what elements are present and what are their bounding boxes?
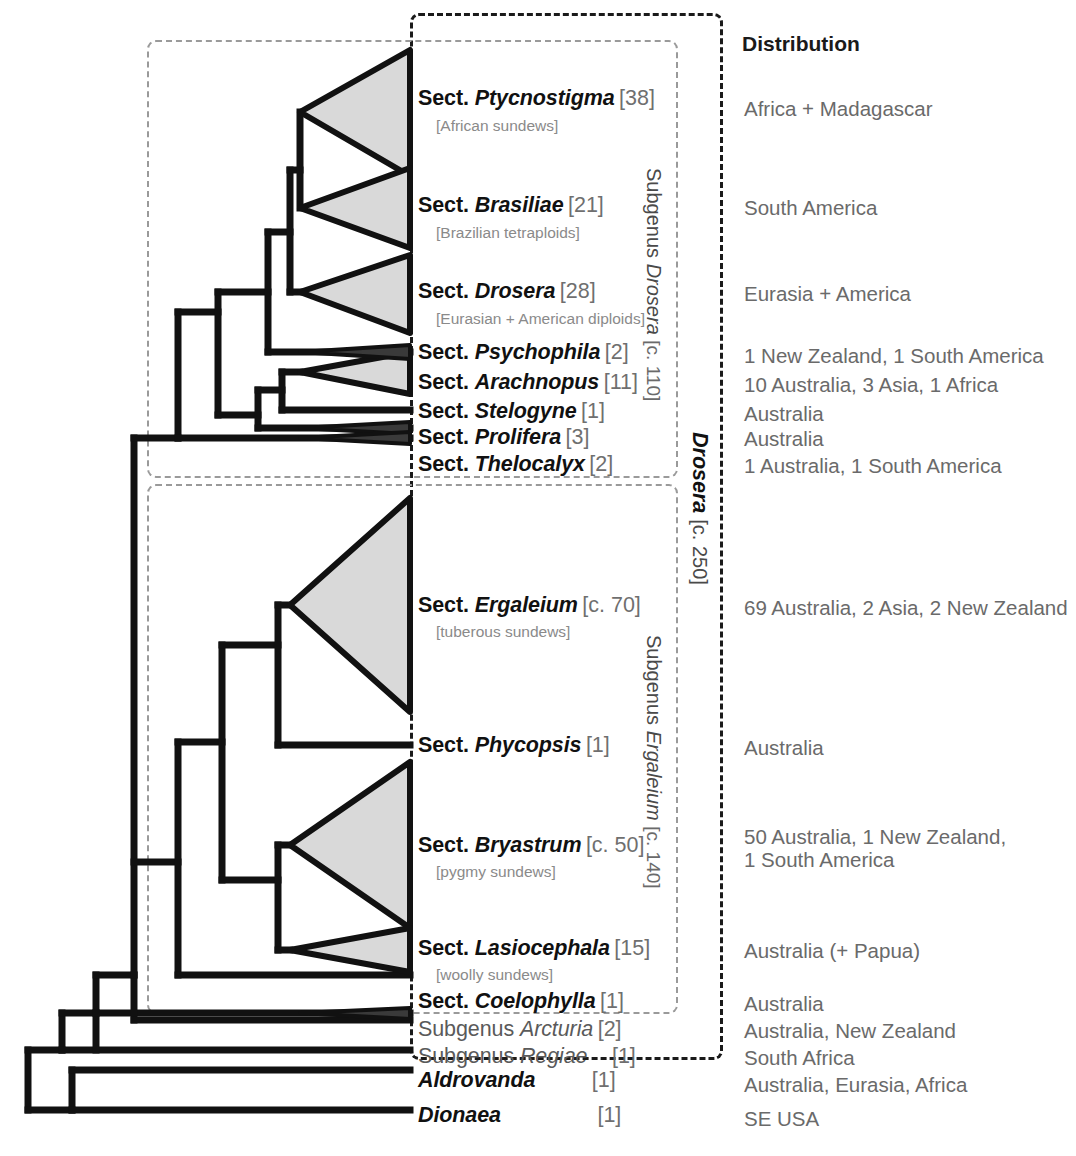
taxon-count: [1] (612, 1044, 636, 1068)
figure-canvas: Sect. Ptycnostigma [38] [African sundews… (0, 0, 1076, 1156)
taxon-count: [28] (560, 279, 596, 303)
taxon-prefix: Sect. (418, 399, 469, 423)
taxon-label-bryastrum: Sect. Bryastrum [c. 50] (418, 835, 644, 857)
taxon-prefix: Sect. (418, 936, 469, 960)
taxon-label-ergaleium: Sect. Ergaleium [c. 70] (418, 595, 641, 617)
taxon-prefix: Sect. (418, 425, 469, 449)
taxon-count: [1] (592, 1068, 616, 1092)
taxon-name: Prolifera (475, 425, 561, 449)
taxon-count: [2] (589, 452, 613, 476)
distribution-coelophylla: Australia (744, 993, 824, 1016)
taxon-label-thelocalyx: Sect. Thelocalyx [2] (418, 454, 613, 476)
taxon-prefix: Sect. (418, 370, 469, 394)
taxon-name: Bryastrum (475, 833, 582, 857)
taxon-label-ptycnostigma: Sect. Ptycnostigma [38] (418, 88, 655, 110)
taxon-count: [2] (605, 340, 629, 364)
clade-sliver-thelocalyx (300, 432, 410, 444)
clade-sliver-psychophila (300, 345, 410, 359)
taxon-label-arachnopus: Sect. Arachnopus [11] (418, 372, 638, 394)
clade-triangle-brasiliae (300, 168, 410, 248)
taxon-prefix: Subgenus (418, 1017, 514, 1041)
taxon-common-ergaleium: [tuberous sundews] (436, 624, 570, 640)
distribution-aldrovanda: Australia, Eurasia, Africa (744, 1074, 967, 1097)
taxon-label-regiae: Subgenus Regiae [1] (418, 1046, 636, 1068)
taxon-common-drosera-sect: [Eurasian + American diploids] (436, 311, 645, 327)
distribution-brasiliae: South America (744, 197, 877, 220)
taxon-label-dionaea: Dionaea [1] (418, 1105, 621, 1127)
taxon-label-psychophila: Sect. Psychophila [2] (418, 342, 629, 364)
taxon-label-arcturia: Subgenus Arcturia [2] (418, 1019, 622, 1041)
taxon-name: Ptycnostigma (475, 86, 615, 110)
taxon-prefix: Sect. (418, 279, 469, 303)
taxon-count: [2] (598, 1017, 622, 1041)
taxon-count: [21] (568, 193, 604, 217)
bracket-label-drosera-genus: Drosera [c. 250] (689, 432, 711, 585)
taxon-count: [3] (566, 425, 590, 449)
taxon-name: Dionaea (418, 1103, 501, 1127)
taxon-name: Coelophylla (475, 989, 596, 1013)
taxon-prefix: Sect. (418, 733, 469, 757)
taxon-label-brasiliae: Sect. Brasiliae [21] (418, 195, 604, 217)
taxon-name: Aldrovanda (418, 1068, 535, 1092)
taxon-name: Psychophila (475, 340, 601, 364)
distribution-column-header: Distribution (742, 32, 860, 56)
taxon-label-drosera-sect: Sect. Drosera [28] (418, 281, 596, 303)
taxon-name: Stelogyne (475, 399, 577, 423)
taxon-common-ptycnostigma: [African sundews] (436, 118, 558, 134)
taxon-prefix: Sect. (418, 340, 469, 364)
taxon-label-phycopsis: Sect. Phycopsis [1] (418, 735, 610, 757)
clade-triangle-ptycnostigma (300, 50, 410, 176)
distribution-lasiocephala: Australia (+ Papua) (744, 940, 920, 963)
taxon-name: Drosera (475, 279, 556, 303)
taxon-count: [15] (614, 936, 650, 960)
taxon-name: Thelocalyx (475, 452, 585, 476)
taxon-count: [1] (597, 1103, 621, 1127)
distribution-ergaleium: 69 Australia, 2 Asia, 2 New Zealand (744, 597, 1068, 620)
clade-triangle-bryastrum (290, 762, 410, 928)
taxon-count: [1] (600, 989, 624, 1013)
clade-triangle-ergaleium (290, 498, 410, 712)
distribution-psychophila: 1 New Zealand, 1 South America (744, 345, 1044, 368)
taxon-count: [1] (586, 733, 610, 757)
taxon-prefix: Subgenus (418, 1044, 514, 1068)
taxon-name: Arachnopus (475, 370, 599, 394)
bracket-label-subgenus-ergaleium: Subgenus Ergaleium [c. 140] (644, 635, 664, 889)
taxon-label-coelophylla: Sect. Coelophylla [1] (418, 991, 624, 1013)
distribution-arachnopus: 10 Australia, 3 Asia, 1 Africa (744, 374, 998, 397)
taxon-name: Lasiocephala (475, 936, 610, 960)
distribution-ptycnostigma: Africa + Madagascar (744, 98, 933, 121)
taxon-prefix: Sect. (418, 833, 469, 857)
taxon-count: [11] (604, 370, 638, 394)
taxon-label-stelogyne: Sect. Stelogyne [1] (418, 401, 605, 423)
bracket-label-subgenus-drosera: Subgenus Drosera [c. 110] (644, 168, 664, 401)
taxon-name: Arcturia (520, 1017, 593, 1041)
distribution-drosera-sect: Eurasia + America (744, 283, 911, 306)
taxon-count: [c. 70] (582, 593, 641, 617)
taxon-common-lasiocephala: [woolly sundews] (436, 967, 553, 983)
taxon-prefix: Sect. (418, 593, 469, 617)
distribution-arcturia: Australia, New Zealand (744, 1020, 956, 1043)
taxon-count: [1] (581, 399, 605, 423)
distribution-thelocalyx: 1 Australia, 1 South America (744, 455, 1002, 478)
taxon-name: Brasiliae (475, 193, 564, 217)
taxon-name: Regiae (520, 1044, 588, 1068)
distribution-regiae: South Africa (744, 1047, 855, 1070)
distribution-bryastrum: 50 Australia, 1 New Zealand, 1 South Ame… (744, 826, 1006, 872)
taxon-name: Phycopsis (475, 733, 582, 757)
taxon-common-brasiliae: [Brazilian tetraploids] (436, 225, 580, 241)
distribution-phycopsis: Australia (744, 737, 824, 760)
distribution-dionaea: SE USA (744, 1108, 819, 1131)
distribution-stelogyne: Australia (744, 403, 824, 426)
clade-triangle-drosera (300, 255, 410, 333)
taxon-label-lasiocephala: Sect. Lasiocephala [15] (418, 938, 650, 960)
taxon-label-aldrovanda: Aldrovanda [1] (418, 1070, 616, 1092)
taxon-prefix: Sect. (418, 989, 469, 1013)
taxon-prefix: Sect. (418, 193, 469, 217)
taxon-count: [c. 50] (586, 833, 645, 857)
taxon-name: Ergaleium (475, 593, 578, 617)
taxon-count: [38] (619, 86, 655, 110)
taxon-common-bryastrum: [pygmy sundews] (436, 864, 556, 880)
distribution-prolifera: Australia (744, 428, 824, 451)
taxon-prefix: Sect. (418, 86, 469, 110)
clade-triangle-lasiocephala (290, 928, 410, 972)
